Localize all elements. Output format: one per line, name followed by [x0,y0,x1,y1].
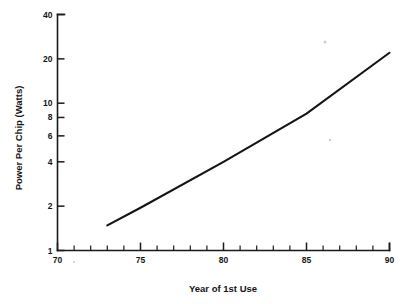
y-tick-label: 6 [48,131,53,141]
x-tick-label: 80 [219,255,229,265]
series-line-power-per-chip [107,53,389,226]
y-axis-ticks [58,15,65,251]
y-tick-label: 2 [48,201,53,211]
x-tick-label: 75 [136,255,146,265]
data-series-group [107,53,389,226]
chart-canvas: 12468102040 7075808590 Year of 1st Use P… [0,0,404,304]
y-tick-label: 20 [43,54,53,64]
x-tick-label: 90 [385,255,395,265]
chart-figure: 12468102040 7075808590 Year of 1st Use P… [0,0,404,304]
y-tick-label: 40 [43,10,53,20]
x-tick-label: 85 [302,255,312,265]
y-tick-label: 4 [48,157,53,167]
scan-artifacts [73,40,331,263]
x-axis-title: Year of 1st Use [189,283,257,294]
y-tick-label: 8 [48,112,53,122]
y-axis-title: Power Per Chip (Watts) [13,86,24,191]
axes [58,15,390,251]
x-axis-tick-labels: 7075808590 [53,255,395,265]
y-tick-label: 10 [43,98,53,108]
y-axis-tick-labels: 12468102040 [43,10,53,256]
x-tick-label: 70 [53,255,63,265]
